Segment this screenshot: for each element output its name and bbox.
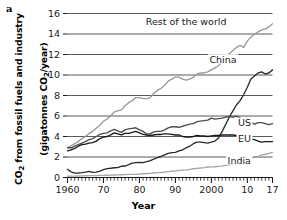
x-tick-label: 90 [169,184,181,195]
series-label-rest-of-the-world: Rest of the world [146,16,227,27]
x-tick-labels-group: 196070809020001017 [55,184,278,195]
figure-panel-a: a CO2 from fossil fuels and industry (gi… [0,0,287,220]
y-tick-labels-group: 0246810121416 [48,8,68,183]
series-lines-group [68,24,273,177]
x-tick-label: 10 [241,184,253,195]
x-tick-label: 17 [266,184,278,195]
chart-plot-area: 0246810121416 196070809020001017 Rest of… [0,0,287,220]
series-label-china: China [209,54,236,65]
y-tick-label: 4 [54,131,60,142]
y-tick-label: 16 [48,8,60,19]
y-tick-label: 12 [48,49,60,60]
y-tick-label: 14 [48,28,60,39]
series-label-india: India [228,155,251,166]
y-tick-label: 2 [54,151,60,162]
series-line-rest-of-the-world [68,24,273,148]
x-axis-group [68,178,273,184]
y-tick-label: 6 [54,110,60,121]
x-tick-label: 1960 [55,184,79,195]
x-tick-label: 2000 [199,184,223,195]
x-axis-label: Year [0,200,287,211]
y-tick-label: 10 [48,69,60,80]
y-tick-label: 0 [54,172,60,183]
series-label-us: US [238,117,251,128]
series-labels-group: Rest of the worldChinaUSEUIndia [144,16,252,166]
x-tick-label: 70 [97,184,109,195]
x-tick-label: 80 [133,184,145,195]
y-tick-label: 8 [54,90,60,101]
series-label-eu: EU [238,133,251,144]
